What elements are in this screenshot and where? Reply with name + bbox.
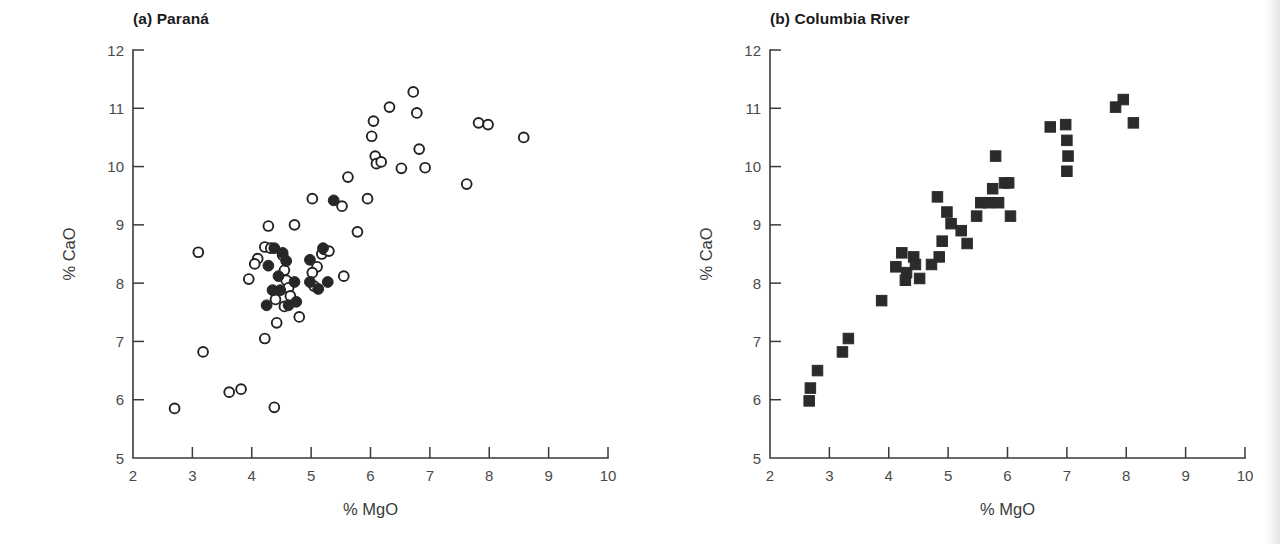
data-point xyxy=(934,252,945,263)
y-tick-label: 11 xyxy=(108,100,124,117)
data-point xyxy=(971,211,982,222)
data-point xyxy=(1005,211,1016,222)
data-point xyxy=(804,396,815,407)
x-tick-label: 5 xyxy=(307,467,315,484)
data-point xyxy=(322,277,333,288)
data-point xyxy=(170,404,180,414)
data-point xyxy=(198,347,208,357)
data-point xyxy=(236,384,246,394)
y-tick-label: 8 xyxy=(116,275,124,292)
x-tick-label: 7 xyxy=(1063,467,1071,484)
data-point xyxy=(244,274,254,284)
data-point xyxy=(414,144,424,154)
x-tick-label: 8 xyxy=(1122,467,1130,484)
x-tick-label: 4 xyxy=(885,467,893,484)
y-tick-label: 7 xyxy=(753,333,761,350)
data-point xyxy=(805,383,816,394)
y-tick-label: 8 xyxy=(753,275,761,292)
data-point xyxy=(273,271,284,282)
data-point xyxy=(942,207,953,218)
y-tick-label: 9 xyxy=(116,216,124,233)
data-point xyxy=(353,227,363,237)
x-tick-label: 8 xyxy=(485,467,493,484)
data-point xyxy=(914,273,925,284)
data-point xyxy=(993,197,1004,208)
data-point xyxy=(910,259,921,270)
x-tick-label: 4 xyxy=(248,467,256,484)
data-point xyxy=(876,295,887,306)
y-tick-label: 5 xyxy=(753,450,761,467)
data-point xyxy=(272,318,282,328)
data-point xyxy=(281,256,292,267)
data-point xyxy=(267,285,278,296)
panel-a-plot: 567891011122345678910% MgO% CaO xyxy=(0,0,640,544)
x-tick-label: 6 xyxy=(366,467,374,484)
data-point xyxy=(412,108,422,118)
data-point xyxy=(1003,178,1014,189)
data-point xyxy=(261,300,272,311)
y-tick-label: 9 xyxy=(753,216,761,233)
y-axis-title: % CaO xyxy=(697,227,715,280)
x-tick-label: 5 xyxy=(944,467,952,484)
data-point xyxy=(983,197,994,208)
data-point xyxy=(1062,166,1073,177)
y-tick-label: 6 xyxy=(116,391,124,408)
data-point xyxy=(385,102,395,112)
x-tick-label: 6 xyxy=(1003,467,1011,484)
figure-scatter-pair: (a) Paraná 567891011122345678910% MgO% C… xyxy=(0,0,1280,544)
data-point xyxy=(897,248,908,259)
x-tick-label: 10 xyxy=(600,467,617,484)
data-point xyxy=(307,194,317,204)
y-tick-label: 11 xyxy=(745,100,761,117)
data-point xyxy=(289,277,300,288)
data-point xyxy=(946,218,957,229)
data-point xyxy=(462,179,472,189)
x-axis-title: % MgO xyxy=(343,500,398,518)
data-point xyxy=(307,268,317,278)
data-point xyxy=(956,225,967,236)
data-point xyxy=(271,295,281,305)
data-point xyxy=(318,243,329,254)
x-tick-label: 9 xyxy=(544,467,552,484)
data-point xyxy=(1128,118,1139,129)
panel-b-plot: 567891011122345678910% MgO% CaO xyxy=(640,0,1280,544)
x-tick-label: 7 xyxy=(426,467,434,484)
data-point xyxy=(283,300,294,311)
x-tick-label: 3 xyxy=(825,467,833,484)
data-point xyxy=(260,334,270,344)
data-point xyxy=(1063,151,1074,162)
data-point xyxy=(369,116,379,126)
data-point xyxy=(962,238,973,249)
data-point xyxy=(483,120,493,130)
data-point xyxy=(937,236,948,247)
data-point xyxy=(408,87,418,97)
data-point xyxy=(1062,135,1073,146)
y-tick-label: 10 xyxy=(107,158,124,175)
data-point xyxy=(932,192,943,203)
x-tick-label: 2 xyxy=(766,467,774,484)
y-tick-label: 5 xyxy=(116,450,124,467)
y-tick-label: 6 xyxy=(753,391,761,408)
data-point xyxy=(363,194,373,204)
data-point xyxy=(474,118,484,128)
data-point xyxy=(290,220,300,230)
data-point xyxy=(224,387,234,397)
data-point xyxy=(294,312,304,322)
data-point xyxy=(328,195,339,206)
data-point xyxy=(420,163,430,173)
data-point xyxy=(376,157,386,167)
data-point xyxy=(1045,122,1056,132)
data-point xyxy=(250,259,260,269)
data-point xyxy=(343,172,353,182)
data-point xyxy=(313,284,324,295)
series-filled-squares xyxy=(804,94,1139,406)
series-open-circles xyxy=(170,87,529,413)
data-point xyxy=(843,333,854,344)
data-point xyxy=(990,151,1001,162)
data-point xyxy=(987,183,998,194)
panel-parana: (a) Paraná 567891011122345678910% MgO% C… xyxy=(0,0,640,544)
data-point xyxy=(193,247,203,257)
axis-frame xyxy=(133,50,608,458)
data-point xyxy=(263,221,273,231)
x-tick-label: 2 xyxy=(129,467,137,484)
